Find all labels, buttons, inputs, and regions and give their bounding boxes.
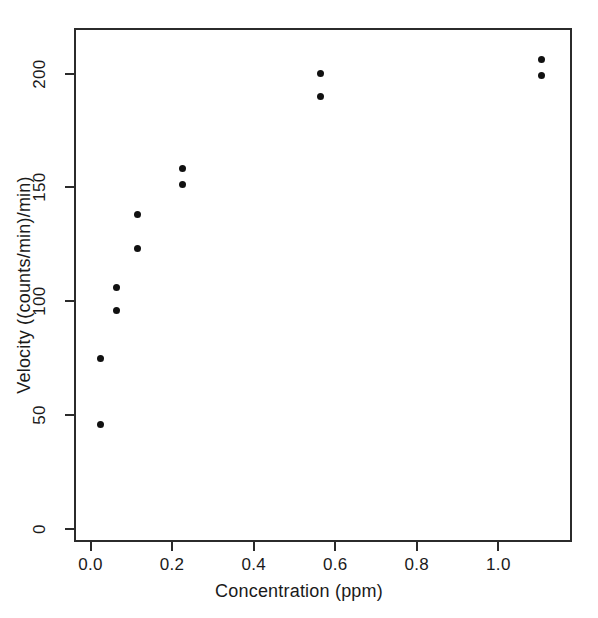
y-axis-tick-label: 0	[30, 508, 50, 550]
y-axis-tick-label: 200	[30, 53, 50, 95]
y-axis-tick-label: 50	[30, 394, 50, 436]
data-point	[134, 245, 141, 252]
x-axis-tick	[497, 542, 499, 551]
y-axis-tick	[65, 414, 74, 416]
data-point	[179, 181, 186, 188]
scatter-plot-figure: 0.00.20.40.60.81.0050100150200 Concentra…	[0, 0, 598, 618]
y-axis-label: Velocity ((counts/min)/min)	[14, 176, 35, 393]
plot-area-box	[74, 28, 572, 542]
y-axis-tick	[65, 300, 74, 302]
data-point	[538, 56, 545, 63]
x-axis-tick-label: 0.0	[78, 555, 103, 575]
data-points-layer	[76, 30, 570, 540]
data-point	[113, 307, 120, 314]
data-point	[113, 284, 120, 291]
data-point	[317, 70, 324, 77]
x-axis-tick-label: 0.6	[323, 555, 348, 575]
x-axis-tick	[253, 542, 255, 551]
data-point	[538, 72, 545, 79]
y-axis-tick	[65, 186, 74, 188]
x-axis-tick-label: 0.8	[405, 555, 430, 575]
x-axis-tick	[334, 542, 336, 551]
x-axis-tick-label: 0.2	[160, 555, 185, 575]
data-point	[97, 355, 104, 362]
x-axis-tick	[90, 542, 92, 551]
x-axis-label: Concentration (ppm)	[0, 581, 598, 602]
data-point	[179, 165, 186, 172]
y-axis-tick	[65, 528, 74, 530]
x-axis-tick	[416, 542, 418, 551]
x-axis-tick-label: 0.4	[241, 555, 266, 575]
x-axis-tick	[171, 542, 173, 551]
data-point	[317, 93, 324, 100]
data-point	[134, 211, 141, 218]
data-point	[97, 421, 104, 428]
x-axis-tick-label: 1.0	[486, 555, 511, 575]
y-axis-tick	[65, 73, 74, 75]
